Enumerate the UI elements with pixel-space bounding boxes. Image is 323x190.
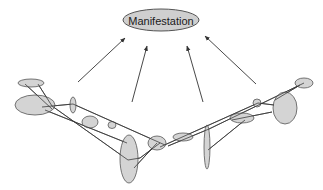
manifestation-node: Manifestation	[123, 9, 199, 31]
component-ellipse-e2	[15, 95, 55, 115]
component-ellipse-e9	[204, 125, 210, 169]
component-ellipse-e12	[273, 92, 297, 124]
manifestation-label: Manifestation	[128, 15, 193, 27]
link-line-overlay	[208, 120, 245, 150]
arrows-to-manifestation	[78, 36, 256, 102]
arrow-icon	[132, 46, 147, 102]
arrow-icon	[78, 38, 125, 82]
link-lines	[25, 83, 304, 168]
arrow-icon	[187, 46, 203, 102]
manifestation-diagram: Manifestation	[0, 0, 323, 190]
component-ellipse-e1	[18, 79, 44, 87]
link-line-overlay	[52, 106, 128, 160]
arrow-icon	[205, 36, 256, 84]
component-ellipses	[15, 78, 313, 183]
